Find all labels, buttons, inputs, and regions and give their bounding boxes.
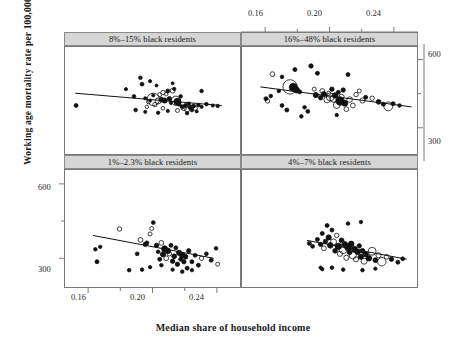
y-axis-title: Working age mortality rate per 100,000: [23, 0, 33, 191]
bottom-tick-label-0: 0.16: [71, 292, 86, 302]
panel-strip-3: 1%–2.3% black residents: [64, 155, 241, 169]
plot-panel-1[interactable]: [64, 46, 241, 155]
plot-panel-4[interactable]: [241, 169, 418, 288]
trellis-scatter-figure: 8%–15% black residents 16%–48% black res…: [0, 0, 466, 339]
right-tick-label-600: 600: [428, 49, 441, 59]
bottom-tick-label-2: 0.24: [189, 292, 204, 302]
panel-strip-2: 16%–48% black residents: [241, 32, 418, 46]
panel-strip-1: 8%–15% black residents: [64, 32, 241, 46]
bottom-tick-label-1: 0.20: [130, 292, 145, 302]
top-tick-label-0: 0.16: [248, 8, 263, 18]
plot-panel-3[interactable]: [64, 169, 241, 288]
panel-strip-label-1: 8%–15% black residents: [109, 34, 196, 44]
panel-strip-label-2: 16%–48% black residents: [284, 34, 376, 44]
x-axis-title: Median share of household income: [0, 322, 466, 333]
plot-panel-2[interactable]: [241, 46, 418, 155]
top-tick-label-2: 0.24: [366, 8, 381, 18]
panel-strip-label-4: 4%–7% black residents: [288, 157, 371, 167]
left-tick-label-300: 300: [38, 264, 51, 274]
left-tick-label-600: 600: [38, 182, 51, 192]
panel-strip-4: 4%–7% black residents: [241, 155, 418, 169]
top-tick-label-1: 0.20: [307, 8, 322, 18]
panel-strip-label-3: 1%–2.3% black residents: [108, 157, 197, 167]
right-tick-label-300: 300: [428, 136, 441, 146]
